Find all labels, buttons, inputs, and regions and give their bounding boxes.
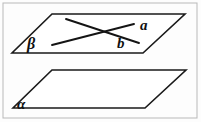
lower-plane-fill	[13, 70, 186, 108]
geometry-figure: a b β α	[0, 0, 201, 122]
label-plane-beta: β	[27, 36, 35, 52]
label-line-b: b	[117, 36, 125, 51]
label-line-a: a	[140, 18, 148, 33]
label-plane-alpha: α	[17, 97, 25, 112]
figure-canvas	[0, 0, 201, 122]
